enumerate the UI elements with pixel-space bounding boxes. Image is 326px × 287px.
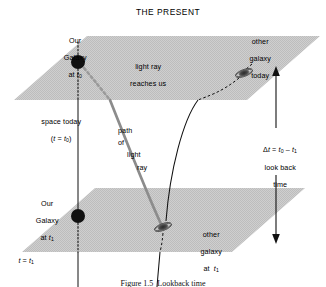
- label-path-of-light-ray-line1: path: [118, 127, 158, 136]
- lookback-minus: –: [284, 145, 292, 154]
- space-today-equals: =: [55, 134, 64, 143]
- lookback-time-arrowhead-down: [272, 234, 280, 244]
- lookback-equals: =: [270, 145, 279, 154]
- our-galaxy-today-line2: Galaxy: [64, 53, 87, 62]
- our-galaxy-past-line3-pre: at: [41, 233, 49, 242]
- label-space-today: space today (t = t0): [12, 109, 102, 153]
- time-axis-equals: =: [21, 256, 30, 265]
- label-other-galaxy-today: other galaxy today: [228, 29, 284, 89]
- our-galaxy-past-line3-sub: 1: [51, 236, 54, 242]
- label-other-galaxy-past: other galaxy at t1: [179, 222, 235, 283]
- space-today-line1: space today: [41, 117, 81, 126]
- space-today-paren-close: ): [69, 134, 72, 143]
- our-galaxy-past-line1: Our: [41, 199, 53, 208]
- label-our-galaxy-today: Our Galaxy at t0: [41, 28, 101, 89]
- label-lookback-time: Δt = t0 – t1 look back time: [240, 137, 312, 198]
- our-galaxy-past-line2: Galaxy: [36, 216, 59, 225]
- other-galaxy-past-line1: other: [203, 230, 220, 239]
- other-galaxy-past-line2: galaxy: [201, 247, 222, 256]
- light-ray-reaches-us-line1: light ray: [135, 62, 161, 71]
- other-galaxy-today-line3: today: [251, 71, 269, 80]
- light-ray-reaches-us-line2: reaches us: [130, 79, 166, 88]
- our-galaxy-today-line3-sub: 0: [79, 73, 82, 79]
- other-galaxy-past-line3-pre: at: [203, 264, 213, 273]
- time-axis-sub-1: 1: [31, 259, 34, 265]
- other-galaxy-today-line1: other: [252, 37, 269, 46]
- other-galaxy-past-line3-sub: 1: [216, 267, 219, 273]
- label-path-of-light-ray-line4: ray: [137, 164, 177, 173]
- label-path-of-light-ray-line2: of: [118, 139, 158, 148]
- label-light-ray-reaches-us: light ray reaches us: [106, 54, 182, 97]
- figure-caption: Figure 1.5 Lookback time: [43, 279, 283, 287]
- figure-title: THE PRESENT: [103, 7, 233, 17]
- other-galaxy-today-line2: galaxy: [250, 54, 271, 63]
- label-time-axis-t1: t = t1: [10, 248, 60, 275]
- lookback-line3: time: [273, 180, 287, 189]
- our-galaxy-today-line1: Our: [69, 36, 81, 45]
- our-galaxy-past-marker: [71, 209, 85, 223]
- label-path-of-light-ray-line3: light: [127, 151, 167, 160]
- lookback-sub-1: 1: [294, 148, 297, 154]
- figure-root: THE PRESENT Our Galaxy at t0 light ray r…: [0, 0, 326, 287]
- lookback-line2: look back: [265, 163, 296, 172]
- label-our-galaxy-past: Our Galaxy at t1: [13, 191, 73, 252]
- our-galaxy-today-line3-pre: at: [69, 70, 77, 79]
